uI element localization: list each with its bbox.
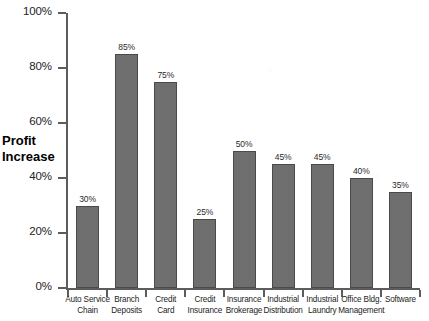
y-axis-title: Profit Increase (2, 133, 64, 165)
bar-value-label: 75% (146, 70, 186, 80)
y-axis-line (66, 13, 68, 289)
y-tick-mark (58, 232, 66, 234)
bar-value-label: 45% (263, 152, 303, 162)
bar (154, 82, 177, 288)
y-tick-label: 60% (0, 115, 52, 127)
y-tick-label: 100% (0, 5, 52, 17)
y-tick-label: 80% (0, 60, 52, 72)
x-category-label-line: Software (374, 295, 426, 306)
x-category-label-line: Management (335, 306, 387, 317)
y-tick-mark (58, 12, 66, 14)
bar-value-label: 45% (302, 152, 342, 162)
y-tick-mark (58, 177, 66, 179)
bar (233, 151, 256, 289)
bar-value-label: 50% (224, 139, 264, 149)
y-tick-label: 20% (0, 225, 52, 237)
bar (115, 54, 138, 288)
bar-value-label: 85% (107, 42, 147, 52)
x-category-label: Software (374, 295, 426, 306)
y-axis-title-line1: Profit (2, 133, 64, 149)
bar (311, 164, 334, 288)
bar-value-label: 30% (68, 194, 108, 204)
bar (76, 206, 99, 289)
x-axis-line (66, 288, 420, 290)
bar-value-label: 25% (185, 207, 225, 217)
bar (350, 178, 373, 288)
y-axis-title-line2: Increase (2, 149, 64, 165)
y-tick-mark (58, 122, 66, 124)
y-tick-label: 40% (0, 170, 52, 182)
bar-value-label: 35% (380, 180, 420, 190)
bar (193, 219, 216, 288)
bar-value-label: 40% (341, 166, 381, 176)
y-tick-mark (58, 287, 66, 289)
y-tick-label: 0% (0, 280, 52, 292)
bar (272, 164, 295, 288)
bar (389, 192, 412, 288)
y-tick-mark (58, 67, 66, 69)
bar-chart: 100%80%60%40%20%0% Profit Increase 30%85… (0, 0, 429, 321)
